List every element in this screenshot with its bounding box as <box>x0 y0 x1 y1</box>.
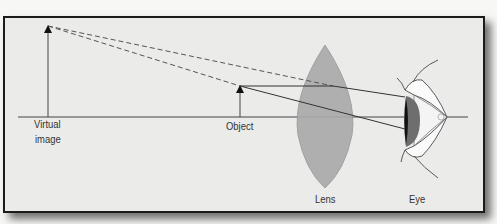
lens-label: Lens <box>315 192 336 206</box>
virtual-image-label-line2: image <box>35 132 61 146</box>
object-label: Object <box>226 119 253 133</box>
eye-icon <box>397 60 447 178</box>
dashed-ray-lower <box>48 26 240 86</box>
dashed-ray-upper <box>48 26 333 86</box>
ray-diagram <box>0 0 497 224</box>
eye-label: Eye <box>409 192 425 206</box>
convex-lens <box>297 45 353 188</box>
virtual-image-label: Virtual <box>34 117 61 131</box>
